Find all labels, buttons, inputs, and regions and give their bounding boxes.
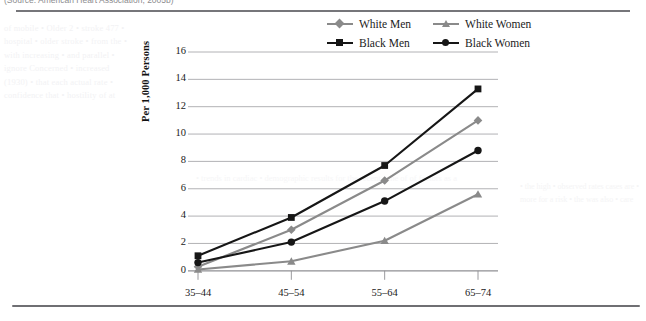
data-point-marker bbox=[288, 214, 295, 221]
data-point-marker bbox=[474, 147, 481, 154]
data-point-marker bbox=[474, 190, 482, 197]
series-line bbox=[198, 150, 478, 262]
series-line bbox=[198, 120, 478, 266]
data-point-marker bbox=[381, 197, 388, 204]
chart-svg bbox=[0, 0, 646, 321]
data-point-marker bbox=[194, 259, 201, 266]
data-point-marker bbox=[475, 86, 482, 93]
chart-plot-area: Per 1,000 Persons 0246810121416 35–4445–… bbox=[0, 0, 646, 321]
data-point-marker bbox=[195, 252, 202, 259]
data-point-marker bbox=[288, 238, 295, 245]
data-point-marker bbox=[287, 225, 296, 234]
data-point-marker bbox=[381, 162, 388, 169]
